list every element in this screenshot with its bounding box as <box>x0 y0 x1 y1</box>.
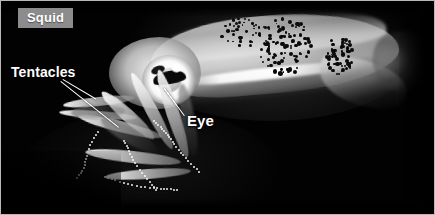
squid-eye-lens <box>171 63 182 73</box>
label-tentacles: Tentacles <box>11 65 75 80</box>
squid-photograph <box>1 1 434 214</box>
vignette-right <box>399 1 434 214</box>
figure-title-badge: Squid <box>18 8 73 28</box>
vignette-bottom <box>1 198 434 214</box>
label-eye: Eye <box>187 113 214 128</box>
squid-figure: Squid Tentacles Eye <box>0 0 435 215</box>
